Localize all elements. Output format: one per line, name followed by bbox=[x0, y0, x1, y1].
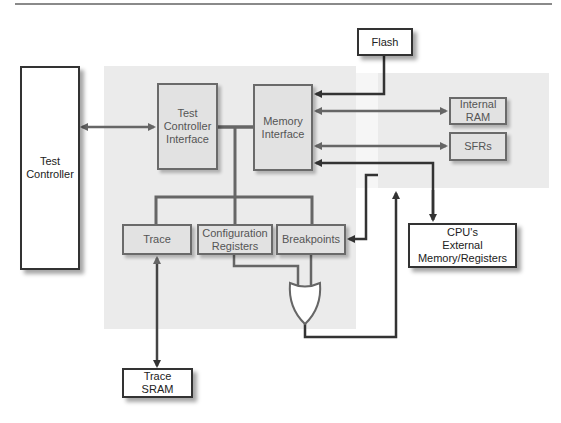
test-controller-block: Test Controller bbox=[20, 66, 80, 270]
sfrs-label: SFRs bbox=[464, 140, 492, 153]
flash-block: Flash bbox=[357, 28, 413, 56]
configuration-registers-block: Configuration Registers bbox=[197, 224, 273, 255]
breakpoints-label: Breakpoints bbox=[282, 233, 340, 246]
cpu-external-label: CPU's External Memory/Registers bbox=[418, 226, 507, 265]
cpu-external-block: CPU's External Memory/Registers bbox=[408, 223, 517, 268]
test-controller-label: Test Controller bbox=[26, 155, 74, 181]
memory-interface-block: Memory Interface bbox=[253, 84, 313, 171]
trace-block: Trace bbox=[122, 224, 192, 255]
test-controller-interface-label: Test Controller Interface bbox=[164, 107, 212, 146]
sfrs-block: SFRs bbox=[449, 132, 507, 161]
wires bbox=[0, 0, 561, 423]
trace-sram-block: Trace SRAM bbox=[122, 368, 193, 398]
internal-ram-label: Internal RAM bbox=[460, 98, 497, 124]
flash-label: Flash bbox=[372, 36, 399, 49]
breakpoints-block: Breakpoints bbox=[276, 224, 346, 255]
trace-label: Trace bbox=[143, 233, 171, 246]
trace-sram-label: Trace SRAM bbox=[142, 370, 174, 396]
memory-interface-label: Memory Interface bbox=[262, 115, 305, 141]
test-controller-interface-block: Test Controller Interface bbox=[157, 83, 218, 170]
or-gate-icon bbox=[290, 283, 320, 324]
configuration-registers-label: Configuration Registers bbox=[202, 227, 267, 253]
internal-ram-block: Internal RAM bbox=[449, 97, 507, 125]
